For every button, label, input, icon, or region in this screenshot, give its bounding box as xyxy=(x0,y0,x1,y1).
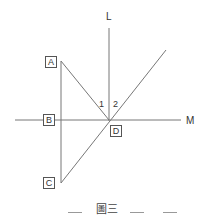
blank-line-3 xyxy=(163,212,177,213)
point-D-label: D xyxy=(110,125,122,137)
blank-line-1 xyxy=(68,212,82,213)
blank-line-2 xyxy=(130,212,144,213)
segment-AD xyxy=(61,61,109,120)
angle-1-label: 1 xyxy=(99,100,104,109)
label-L: L xyxy=(106,12,112,22)
geometry-figure xyxy=(0,0,206,223)
figure-caption: 圖三 xyxy=(96,200,118,216)
angle-2-label: 2 xyxy=(113,100,118,109)
line-CD-extended xyxy=(61,50,166,183)
point-C-label: C xyxy=(43,177,55,189)
point-B-label: B xyxy=(43,114,55,126)
label-M: M xyxy=(186,116,194,126)
point-A-label: A xyxy=(45,56,57,68)
